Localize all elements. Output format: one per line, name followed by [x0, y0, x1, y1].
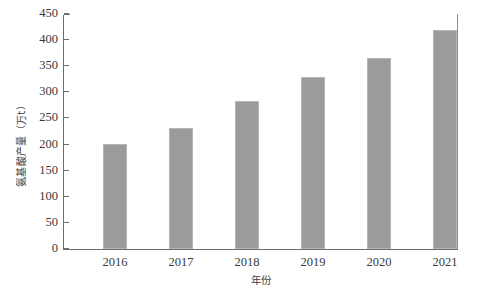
y-axis-tick-label: 200 — [39, 137, 58, 152]
x-axis-title: 年份 — [63, 272, 458, 287]
y-axis-tick-label: 50 — [46, 215, 59, 230]
y-axis-tick-label: 350 — [39, 58, 58, 73]
bar-chart-figure: 氨基酸产量（万t） 050100150200250300350400450 20… — [0, 0, 477, 294]
bar-group: 2018 — [214, 15, 280, 249]
bar-group: 2021 — [412, 15, 477, 249]
bar[interactable] — [235, 101, 259, 249]
y-axis-tick-label: 450 — [39, 6, 58, 21]
y-axis-tick-label: 400 — [39, 32, 58, 47]
bar-group: 2019 — [280, 15, 346, 249]
bar-series: 201620172018201920202021 — [64, 15, 458, 249]
bar-group: 2020 — [346, 15, 412, 249]
y-axis-title: 氨基酸产量（万t） — [9, 78, 31, 208]
x-axis-tick-label: 2016 — [103, 255, 128, 270]
y-axis-tick-label: 100 — [39, 189, 58, 204]
x-axis-tick-label: 2019 — [301, 255, 326, 270]
x-axis-tick-label: 2018 — [235, 255, 260, 270]
plot-area: 050100150200250300350400450 201620172018… — [63, 15, 458, 250]
y-axis-tick-label: 0 — [52, 241, 58, 256]
bar[interactable] — [433, 30, 457, 249]
y-axis-tick-label: 300 — [39, 84, 58, 99]
bar[interactable] — [367, 58, 391, 249]
y-axis-tick-mark — [64, 13, 69, 14]
bar-group: 2017 — [148, 15, 214, 249]
x-axis-tick-label: 2020 — [367, 255, 392, 270]
bar[interactable] — [103, 144, 127, 249]
bar[interactable] — [169, 128, 193, 249]
bar[interactable] — [301, 77, 325, 249]
y-axis-tick-label: 250 — [39, 110, 58, 125]
y-axis-tick-label: 150 — [39, 163, 58, 178]
x-axis-tick-label: 2017 — [169, 255, 194, 270]
x-axis-tick-label: 2021 — [433, 255, 458, 270]
y-axis-title-text: 氨基酸产量（万t） — [13, 100, 28, 187]
bar-group: 2016 — [82, 15, 148, 249]
